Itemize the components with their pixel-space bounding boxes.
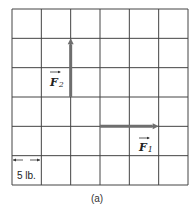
f1-overarrow-head bbox=[147, 137, 150, 140]
f2-overarrow-head bbox=[58, 71, 61, 74]
label-f1: F1 bbox=[138, 137, 153, 154]
scale-label: 5 lb. bbox=[17, 170, 36, 181]
vector-diagram: 5 lb. F2 F1 (a) bbox=[0, 0, 195, 209]
grid bbox=[12, 9, 188, 185]
vector-f2-arrowhead bbox=[68, 38, 74, 44]
scale-left-arrowhead bbox=[13, 159, 16, 162]
label-f2: F2 bbox=[49, 71, 64, 89]
f2-label: F2 bbox=[49, 76, 64, 89]
f1-label: F1 bbox=[138, 141, 153, 154]
scale-right-arrowhead bbox=[37, 159, 40, 162]
vector-f1-arrowhead bbox=[153, 123, 159, 129]
vectors bbox=[68, 38, 159, 129]
caption: (a) bbox=[91, 193, 103, 204]
scale-bar: 5 lb. bbox=[13, 159, 40, 182]
